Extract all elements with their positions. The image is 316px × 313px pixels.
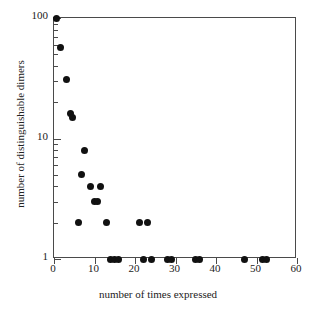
x-axis-tick-label: 20 bbox=[119, 262, 149, 274]
y-axis-minor-tick bbox=[54, 150, 58, 151]
y-axis-minor-tick bbox=[54, 144, 58, 145]
data-point bbox=[78, 171, 85, 178]
data-point bbox=[69, 114, 76, 121]
plot-area bbox=[53, 17, 296, 258]
y-axis-minor-tick bbox=[54, 66, 58, 67]
y-axis-minor-tick bbox=[54, 157, 58, 158]
data-point bbox=[53, 15, 60, 22]
y-axis-minor-tick bbox=[54, 54, 58, 55]
y-axis-tick-label: 100 bbox=[14, 9, 48, 21]
y-axis-tick-label: 1 bbox=[14, 250, 48, 262]
data-point bbox=[94, 198, 101, 205]
data-point bbox=[144, 219, 151, 226]
y-axis-tick bbox=[54, 259, 61, 260]
data-point bbox=[63, 76, 70, 83]
data-point bbox=[81, 147, 88, 154]
y-axis-minor-tick bbox=[54, 30, 58, 31]
data-point bbox=[87, 183, 94, 190]
x-axis-tick-label: 0 bbox=[38, 262, 68, 274]
data-point bbox=[136, 219, 143, 226]
x-axis-tick-label: 40 bbox=[200, 262, 230, 274]
x-axis-tick-label: 50 bbox=[241, 262, 271, 274]
data-point bbox=[97, 183, 104, 190]
x-axis-tick-label: 10 bbox=[79, 262, 109, 274]
data-point bbox=[57, 44, 64, 51]
y-axis-minor-tick bbox=[54, 37, 58, 38]
data-point bbox=[75, 219, 82, 226]
x-axis-label: number of times expressed bbox=[0, 288, 316, 300]
scatter-plot-figure: number of distinguishable dimers number … bbox=[0, 0, 316, 313]
x-axis-tick-label: 30 bbox=[160, 262, 190, 274]
y-axis-minor-tick bbox=[54, 202, 58, 203]
y-axis-tick bbox=[54, 139, 61, 140]
y-axis-minor-tick bbox=[54, 175, 58, 176]
y-axis-minor-tick bbox=[54, 165, 58, 166]
y-axis-minor-tick bbox=[54, 24, 58, 25]
y-axis-tick-label: 10 bbox=[14, 130, 48, 142]
x-axis-tick-label: 60 bbox=[281, 262, 311, 274]
y-axis-minor-tick bbox=[54, 223, 58, 224]
data-point bbox=[103, 219, 110, 226]
y-axis-minor-tick bbox=[54, 81, 58, 82]
y-axis-minor-tick bbox=[54, 186, 58, 187]
y-axis-minor-tick bbox=[54, 102, 58, 103]
